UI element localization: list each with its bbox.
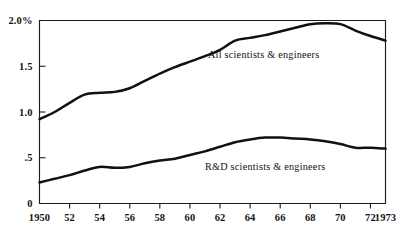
series-annotation-all: All scientists & engineers	[208, 49, 319, 60]
series-annotation-rd: R&D scientists & engineers	[205, 161, 326, 172]
x-tick-label: 70	[335, 212, 346, 223]
x-tick-label: 58	[154, 212, 165, 223]
x-tick-labels: 195052545658606264666870721973	[29, 212, 396, 223]
y-tick-labels: 2.0%1.51.0.50	[8, 15, 32, 209]
y-tick-label: 1.5	[19, 61, 32, 72]
series-line-all	[40, 23, 386, 119]
y-tick-label: 2.0%	[8, 15, 32, 26]
y-tick-label: .5	[24, 152, 32, 163]
x-tick-label: 66	[275, 212, 286, 223]
x-tick-label: 1950	[29, 212, 50, 223]
x-tick-marks	[70, 204, 371, 209]
x-tick-label: 62	[215, 212, 226, 223]
chart-canvas: 2.0%1.51.0.50 19505254565860626466687072…	[0, 0, 412, 242]
x-tick-label: 52	[64, 212, 75, 223]
x-tick-label: 1973	[375, 212, 396, 223]
line-chart: 2.0%1.51.0.50 19505254565860626466687072…	[0, 0, 412, 242]
series-annotations: All scientists & engineersR&D scientists…	[205, 49, 326, 172]
x-tick-label: 64	[245, 212, 256, 223]
x-tick-label: 56	[124, 212, 135, 223]
series-line-rd	[40, 137, 386, 182]
x-tick-label: 60	[185, 212, 196, 223]
y-tick-label: 0	[27, 198, 32, 209]
y-tick-label: 1.0	[19, 107, 32, 118]
x-tick-label: 68	[305, 212, 316, 223]
x-tick-label: 54	[94, 212, 105, 223]
series-lines	[40, 23, 386, 182]
y-tick-marks	[40, 66, 46, 158]
